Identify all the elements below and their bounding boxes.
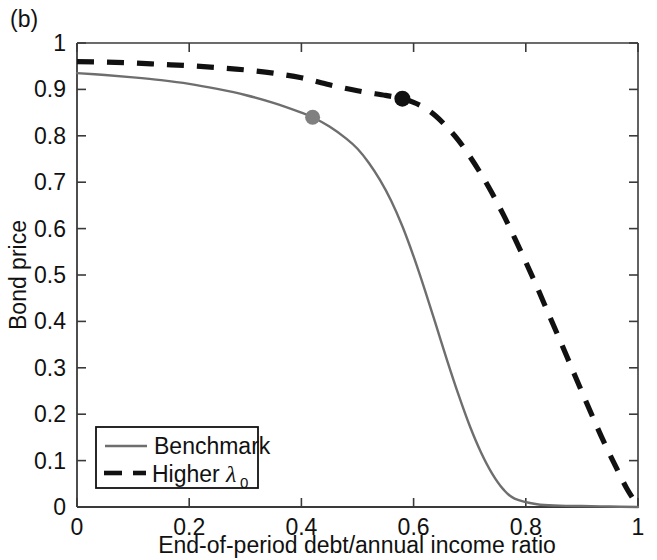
y-tick-label: 0.1 (34, 448, 66, 474)
y-tick-label: 0.6 (34, 216, 66, 242)
x-tick-label: 1 (632, 514, 645, 540)
y-axis-tick-labels: 00.10.20.30.40.50.60.70.80.91 (34, 30, 66, 520)
y-tick-label: 0.7 (34, 169, 66, 195)
y-tick-label: 0.8 (34, 123, 66, 149)
legend-lambda-subscript: 0 (240, 474, 248, 491)
y-tick-label: 0.9 (34, 76, 66, 102)
legend-lambda-symbol: λ (225, 461, 236, 487)
legend-label-higher-lambda: Higher (152, 461, 220, 487)
y-tick-label: 0.3 (34, 355, 66, 381)
legend: Benchmark Higher λ 0 (96, 427, 271, 491)
y-tick-label: 0 (53, 494, 66, 520)
y-axis-title: Bond price (5, 220, 31, 330)
y-tick-label: 0.4 (34, 308, 66, 334)
marker-benchmark (305, 110, 320, 125)
y-tick-label: 1 (53, 30, 66, 56)
y-tick-label: 0.5 (34, 262, 66, 288)
x-axis-title: End-of-period debt/annual income ratio (158, 532, 556, 558)
x-tick-label: 0 (71, 514, 84, 540)
bond-price-chart: 00.10.20.30.40.50.60.70.80.91 00.20.40.6… (0, 0, 657, 560)
legend-label-benchmark: Benchmark (154, 433, 271, 459)
figure-panel-b: (b) 00.10.20.30.40.50.60.70.80.91 00.20.… (0, 0, 657, 560)
y-tick-label: 0.2 (34, 401, 66, 427)
marker-higher-lambda (394, 91, 410, 107)
